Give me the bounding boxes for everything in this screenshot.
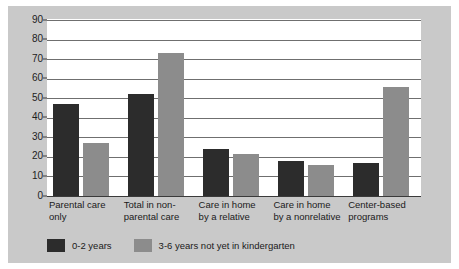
gridline-90: [47, 20, 421, 21]
bar-group-2-series-1: [233, 154, 259, 196]
x-axis-label-1: Total in non- parental care: [124, 199, 197, 222]
gridline-30: [47, 137, 421, 138]
bar-group-0-series-0: [53, 104, 79, 196]
x-axis-label-2: Care in home by a relative: [199, 199, 272, 222]
y-tick-label-60: 60: [32, 73, 43, 83]
gridline-40: [47, 118, 421, 119]
gridline-80: [47, 40, 421, 41]
y-tick-label-10: 10: [32, 171, 43, 181]
gridline-50: [47, 98, 421, 99]
chart-legend: 0-2 years3-6 years not yet in kindergart…: [47, 237, 317, 253]
bar-group-1-series-1: [158, 53, 184, 196]
legend-label-0: 0-2 years: [72, 240, 112, 251]
y-tick-label-90: 90: [32, 15, 43, 25]
chart-figure: 0102030405060708090 Parental care onlyTo…: [8, 6, 451, 263]
y-tick-label-80: 80: [32, 34, 43, 44]
legend-label-1: 3-6 years not yet in kindergarten: [159, 240, 295, 251]
y-tick-label-30: 30: [32, 132, 43, 142]
bar-group-4-series-0: [353, 163, 379, 196]
bar-group-4-series-1: [383, 87, 409, 197]
legend-swatch-1: [134, 239, 152, 252]
x-axis-label-0: Parental care only: [49, 199, 122, 222]
y-tick-label-40: 40: [32, 112, 43, 122]
gridline-70: [47, 59, 421, 60]
bar-group-2-series-0: [203, 149, 229, 196]
x-axis-labels: Parental care onlyTotal in non- parental…: [47, 199, 421, 231]
y-axis: 0102030405060708090: [16, 19, 47, 197]
y-tick-label-50: 50: [32, 93, 43, 103]
legend-swatch-0: [47, 239, 65, 252]
bar-group-3-series-0: [278, 161, 304, 196]
y-tick-label-20: 20: [32, 151, 43, 161]
legend-item-1[interactable]: 3-6 years not yet in kindergarten: [134, 239, 295, 252]
y-tick-label-70: 70: [32, 54, 43, 64]
gridline-60: [47, 79, 421, 80]
bar-group-1-series-0: [128, 94, 154, 196]
gridline-0: [47, 196, 421, 197]
bar-group-0-series-1: [83, 143, 109, 196]
x-axis-label-4: Center-based programs: [348, 199, 421, 222]
plot-area: [47, 19, 421, 196]
x-axis-label-3: Care in home by a nonrelative: [273, 199, 346, 222]
bar-group-3-series-1: [308, 165, 334, 196]
legend-item-0[interactable]: 0-2 years: [47, 239, 112, 252]
